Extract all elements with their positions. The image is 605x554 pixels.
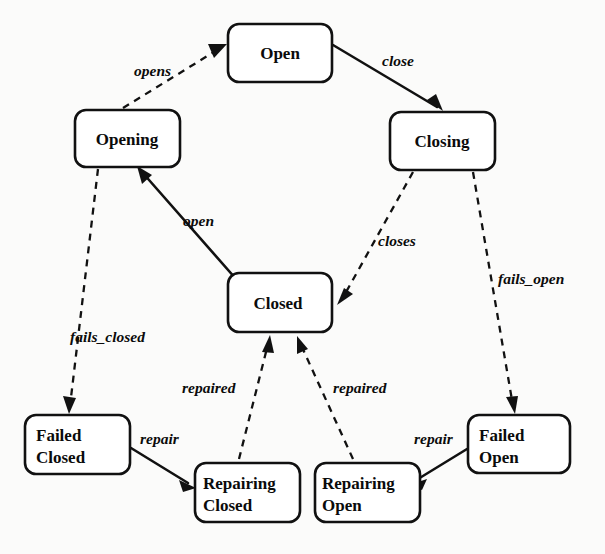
edge-closing-closes-closed: closes (337, 172, 416, 305)
arrow-head-icon (337, 288, 353, 305)
state-node-failed-open[interactable]: Failed Open (468, 415, 570, 473)
edge-opening-fails_closed-failed_closed: fails_closed (63, 169, 145, 414)
edge-failed_closed-repair-repairing_closed: repair (131, 430, 196, 492)
edge-label-repair-open: repair (414, 430, 454, 447)
node-label-line-2: Closed (203, 496, 253, 515)
state-diagram-canvas: opens close open closes fails_open (0, 0, 605, 554)
state-node-open[interactable]: Open (228, 24, 332, 82)
edge-label-close: close (382, 52, 414, 69)
arrow-head-icon (208, 44, 227, 58)
edge-closed-open-opening: open (137, 166, 236, 279)
edge-line (239, 344, 268, 459)
state-node-repairing-closed[interactable]: Repairing Closed (195, 463, 300, 522)
node-label-line-2: Closed (36, 448, 86, 467)
edge-label-repaired-open: repaired (333, 379, 387, 396)
edge-repairing_closed-repaired-closed: repaired (182, 335, 274, 459)
arrow-head-icon (262, 335, 274, 353)
state-node-closing[interactable]: Closing (390, 112, 495, 170)
node-label: Closed (253, 294, 303, 313)
edge-line (70, 169, 98, 406)
node-label-line-1: Failed (36, 426, 82, 445)
edge-label-opens: opens (134, 62, 171, 79)
node-label-line-2: Open (322, 496, 362, 515)
arrow-head-icon (506, 396, 518, 414)
edge-label-fails_closed: fails_closed (70, 328, 145, 345)
edge-line (301, 345, 353, 459)
arrow-head-icon (297, 336, 308, 354)
node-label: Open (260, 44, 300, 63)
state-node-closed[interactable]: Closed (228, 273, 332, 332)
node-label-line-1: Repairing (322, 474, 395, 493)
edge-label-repaired-closed: repaired (182, 379, 236, 396)
node-label-line-2: Open (479, 448, 519, 467)
node-label: Closing (415, 132, 470, 151)
edge-label-repair-closed: repair (140, 430, 180, 447)
edge-open-close-closing: close (333, 45, 443, 111)
node-label: Opening (96, 130, 159, 149)
edge-label-closes: closes (378, 232, 416, 249)
edge-repairing_open-repaired-closed: repaired (297, 336, 387, 459)
edge-line (131, 448, 188, 483)
edge-line (418, 449, 467, 479)
state-diagram: opens close open closes fails_open (0, 0, 605, 554)
arrow-head-icon (63, 396, 76, 414)
node-label-line-1: Failed (479, 426, 525, 445)
edge-label-fails_open: fails_open (498, 270, 564, 287)
edge-closing-fails_open-failed_open: fails_open (473, 172, 564, 414)
state-node-repairing-open[interactable]: Repairing Open (315, 463, 420, 522)
edge-label-open: open (183, 212, 214, 229)
state-node-failed-closed[interactable]: Failed Closed (25, 415, 130, 474)
edge-opening-opens-open: opens (123, 44, 227, 108)
edge-line (473, 172, 513, 406)
state-node-opening[interactable]: Opening (75, 110, 180, 167)
node-label-line-1: Repairing (203, 474, 276, 493)
